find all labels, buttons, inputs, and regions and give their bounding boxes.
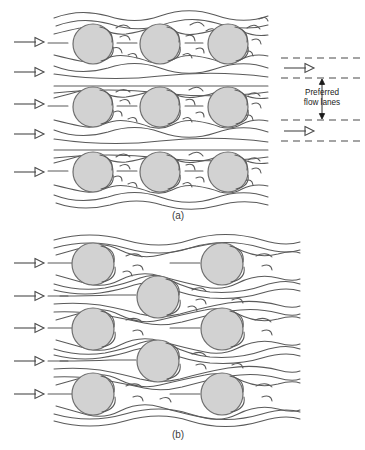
- obstacle-circle: [72, 308, 114, 350]
- preferred-flow-lanes-label-line1: Preferred: [305, 88, 340, 97]
- obstacle-circle: [201, 243, 243, 285]
- obstacle-circle: [72, 243, 114, 285]
- panel-a-caption: (a): [172, 210, 184, 221]
- canvas-background: [0, 0, 365, 450]
- obstacle-circle: [137, 340, 179, 382]
- preferred-flow-lanes-label-line2: flow lanes: [304, 98, 340, 107]
- obstacle-circle: [137, 276, 179, 318]
- obstacle-circle: [201, 308, 243, 350]
- flow-diagram: (a) Preferred flow lanes: [0, 0, 365, 450]
- panel-a-circles: [73, 24, 248, 192]
- obstacle-circle: [72, 373, 114, 415]
- obstacle-circle: [201, 373, 243, 415]
- panel-b-caption: (b): [172, 429, 184, 440]
